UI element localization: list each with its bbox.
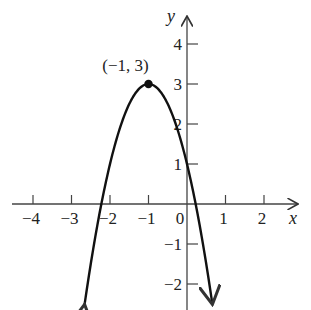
- parabola-graph: −4−3−2−1012 4321−1−2 x y (−1, 3): [0, 0, 311, 310]
- x-tick-label: −1: [137, 209, 155, 228]
- y-tick-label: −2: [164, 275, 182, 294]
- x-tick-labels: −4−3−2−1012: [22, 209, 266, 228]
- y-axis-label: y: [165, 6, 175, 26]
- x-tick-label: 0: [176, 209, 185, 228]
- y-ticks: [187, 44, 198, 284]
- y-tick-label: 3: [174, 75, 183, 94]
- x-tick-label: 1: [219, 209, 228, 228]
- y-tick-label: 4: [174, 35, 183, 54]
- x-tick-label: −2: [99, 209, 117, 228]
- x-tick-label: 2: [258, 209, 267, 228]
- x-tick-label: −4: [22, 209, 41, 228]
- vertex-point: [144, 80, 152, 88]
- parabola-curve: [85, 84, 213, 304]
- x-ticks: [33, 195, 264, 204]
- vertex-label: (−1, 3): [102, 56, 148, 75]
- y-tick-labels: 4321−1−2: [164, 35, 183, 294]
- x-tick-label: −3: [60, 209, 78, 228]
- y-tick-label: −1: [164, 235, 182, 254]
- x-axis-label: x: [288, 208, 297, 228]
- y-tick-label: 1: [174, 155, 183, 174]
